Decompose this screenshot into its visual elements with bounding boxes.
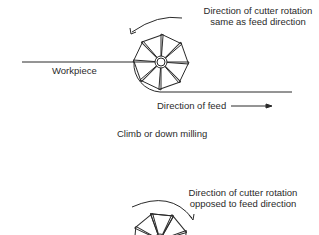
- rotation-label-top: Direction of cutter rotation same as fee…: [198, 5, 318, 27]
- rotation-label-line2: opposed to feed direction: [183, 198, 303, 209]
- rotation-label-bottom: Direction of cutter rotation opposed to …: [183, 187, 303, 209]
- rotation-label-line2: same as feed direction: [198, 16, 318, 27]
- rotation-label-line1: Direction of cutter rotation: [183, 187, 303, 198]
- caption-climb-milling: Climb or down milling: [117, 128, 207, 139]
- top-figure: [22, 17, 292, 108]
- rotation-label-line1: Direction of cutter rotation: [198, 5, 318, 16]
- feed-label: Direction of feed: [157, 100, 226, 111]
- cutter-top: [126, 27, 195, 96]
- workpiece-label: Workpiece: [52, 65, 97, 76]
- cutter-bottom: [127, 207, 194, 235]
- rotation-arrow-icon: [132, 17, 182, 32]
